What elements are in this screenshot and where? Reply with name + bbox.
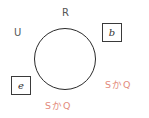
- answer-box-e: e: [11, 76, 31, 95]
- answer-box-b: b: [102, 23, 122, 42]
- set-circle: [34, 28, 96, 90]
- set-label-r: R: [62, 8, 69, 18]
- set-diagram: R U b e SかQ SかQ: [0, 0, 149, 118]
- box-e-value: e: [18, 80, 24, 91]
- box-b-value: b: [109, 27, 115, 38]
- annotation-right: SかQ: [105, 80, 132, 90]
- annotation-bottom: SかQ: [45, 101, 72, 111]
- universe-label-u: U: [14, 28, 21, 38]
